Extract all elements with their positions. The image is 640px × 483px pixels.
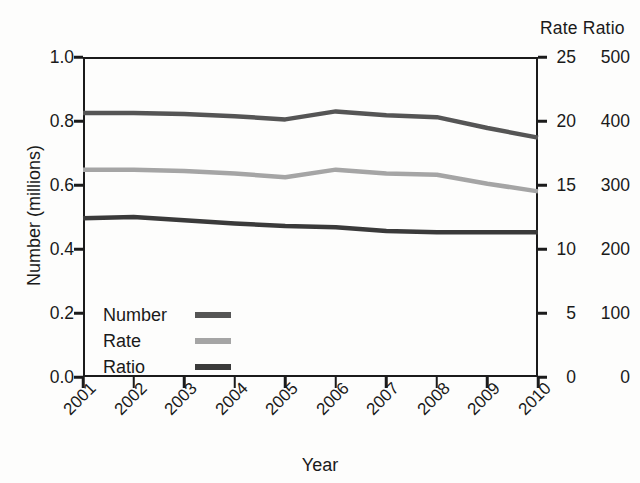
y-tick-label-ratio: 0 xyxy=(584,367,630,388)
chart-figure: Rate Ratio Number (millions) 1.00.80.60.… xyxy=(0,0,640,483)
rate-ratio-axis-header: Rate Ratio xyxy=(540,18,625,39)
y-tick-mark-left xyxy=(74,56,83,59)
y-tick-mark-right xyxy=(538,56,547,59)
y-tick-label-rate: 0 xyxy=(550,367,576,388)
y-tick-mark-left xyxy=(74,248,83,251)
chart-legend: NumberRateRatio xyxy=(103,302,231,380)
y-tick-label-rate: 20 xyxy=(550,111,576,132)
legend-item[interactable]: Number xyxy=(103,302,231,328)
y-tick-label-ratio: 400 xyxy=(584,111,630,132)
legend-item[interactable]: Rate xyxy=(103,328,231,354)
x-axis-title: Year xyxy=(0,455,640,476)
legend-item-label: Number xyxy=(103,305,195,326)
legend-item-label: Ratio xyxy=(103,357,195,378)
y-tick-label-ratio: 300 xyxy=(584,175,630,196)
y-tick-mark-left xyxy=(74,120,83,123)
series-line-rate xyxy=(83,170,538,192)
y-tick-label-rate: 10 xyxy=(550,239,576,260)
y-tick-mark-left xyxy=(74,312,83,315)
y-tick-label-ratio: 500 xyxy=(584,47,630,68)
y-tick-mark-right xyxy=(538,120,547,123)
series-line-number xyxy=(83,111,538,137)
y-tick-label-ratio: 200 xyxy=(584,239,630,260)
y-tick-mark-left xyxy=(74,184,83,187)
y-tick-label-rate: 5 xyxy=(550,303,576,324)
series-line-ratio xyxy=(83,217,538,232)
legend-item-label: Rate xyxy=(103,331,195,352)
y-tick-mark-right xyxy=(538,312,547,315)
legend-swatch-number xyxy=(195,312,231,318)
y-axis-ticks-right: 25500204001530010200510000 xyxy=(538,57,640,377)
y-tick-mark-right xyxy=(538,184,547,187)
y-axis-tickmarks-left xyxy=(0,57,83,377)
y-tick-label-rate: 15 xyxy=(550,175,576,196)
y-tick-mark-right xyxy=(538,376,547,379)
y-tick-label-rate: 25 xyxy=(550,47,576,68)
y-tick-label-ratio: 100 xyxy=(584,303,630,324)
legend-swatch-ratio xyxy=(195,364,231,370)
legend-swatch-rate xyxy=(195,338,231,344)
legend-item[interactable]: Ratio xyxy=(103,354,231,380)
y-tick-mark-right xyxy=(538,248,547,251)
